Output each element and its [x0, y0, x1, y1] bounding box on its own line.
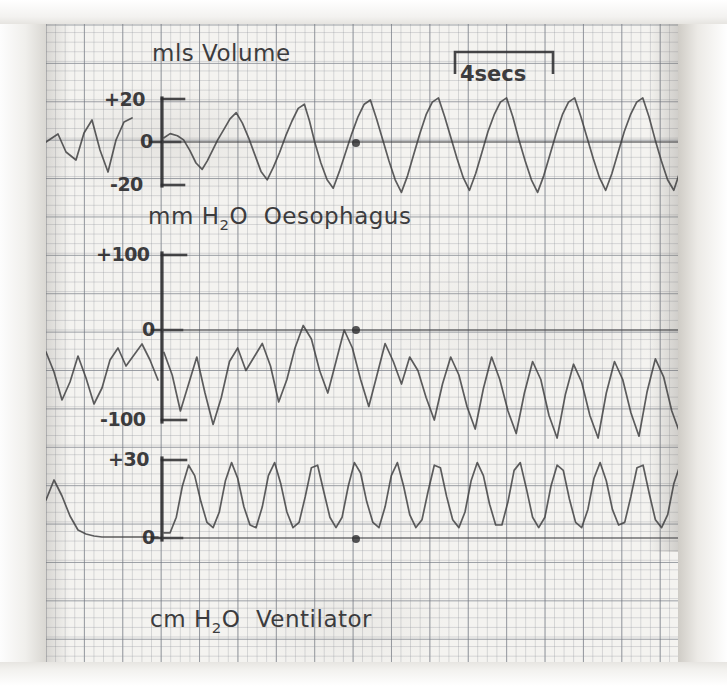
ventilator-trace: [164, 463, 680, 533]
oesophagus-unit-subscript: 2: [219, 216, 229, 234]
volume-panel-title: mls Volume: [152, 40, 291, 66]
oesophagus-unit-h: H: [202, 203, 220, 229]
volume-trace: [164, 98, 680, 192]
ventilator-unit-subscript: 2: [212, 619, 222, 637]
ventilator-title-text: Ventilator: [256, 606, 372, 632]
oesophagus-event-marker: [352, 326, 360, 334]
oesophagus-label-zero: 0: [142, 318, 155, 340]
oesophagus-trace-left-fragment: [46, 344, 158, 404]
ventilator-unit-h: H: [194, 606, 212, 632]
volume-trace-left-fragment: [46, 118, 132, 172]
oesophagus-label-minus100: -100: [100, 408, 146, 430]
volume-label-zero: 0: [140, 130, 153, 152]
oesophagus-title-text: Oesophagus: [264, 203, 412, 229]
volume-title-text: mls Volume: [152, 40, 291, 66]
ventilator-event-marker: [352, 535, 360, 543]
oesophagus-trace: [164, 326, 680, 439]
oesophagus-panel-title: mm H2O Oesophagus: [148, 203, 411, 234]
ventilator-label-plus30: +30: [108, 448, 149, 470]
time-scale-label: 4secs: [460, 62, 526, 86]
ventilator-panel-title: cm H2O Ventilator: [150, 606, 372, 637]
oesophagus-label-plus100: +100: [96, 243, 150, 265]
volume-event-marker: [352, 139, 360, 147]
chart-recording-figure: mls Volume +20 0 -20 4secs mm H2O Oesoph…: [0, 0, 727, 686]
volume-label-minus20: -20: [110, 173, 143, 195]
oesophagus-unit-prefix: mm: [148, 203, 194, 229]
ventilator-unit-prefix: cm: [150, 606, 186, 632]
ventilator-label-zero: 0: [142, 526, 155, 548]
oesophagus-unit-o: O: [229, 203, 248, 229]
volume-label-plus20: +20: [104, 88, 145, 110]
ventilator-unit-o: O: [222, 606, 241, 632]
